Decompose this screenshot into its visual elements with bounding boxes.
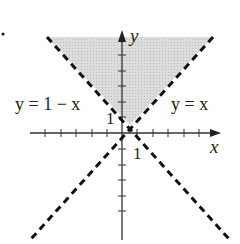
- y-tick-label-one: 1: [106, 109, 115, 128]
- line-label-y-eq-1-minus-x: y = 1 − x: [15, 94, 80, 114]
- stray-dot: [2, 33, 5, 36]
- y-axis-label: y: [128, 25, 139, 46]
- y-axis-arrow-icon: [118, 30, 126, 42]
- x-axis-label: x: [209, 136, 219, 157]
- line-label-y-eq-x: y = x: [171, 94, 208, 114]
- x-tick-label-one: 1: [133, 144, 142, 163]
- inequality-graph: y x 1 1 y = 1 − x y = x: [0, 0, 240, 244]
- x-axis: [30, 129, 221, 137]
